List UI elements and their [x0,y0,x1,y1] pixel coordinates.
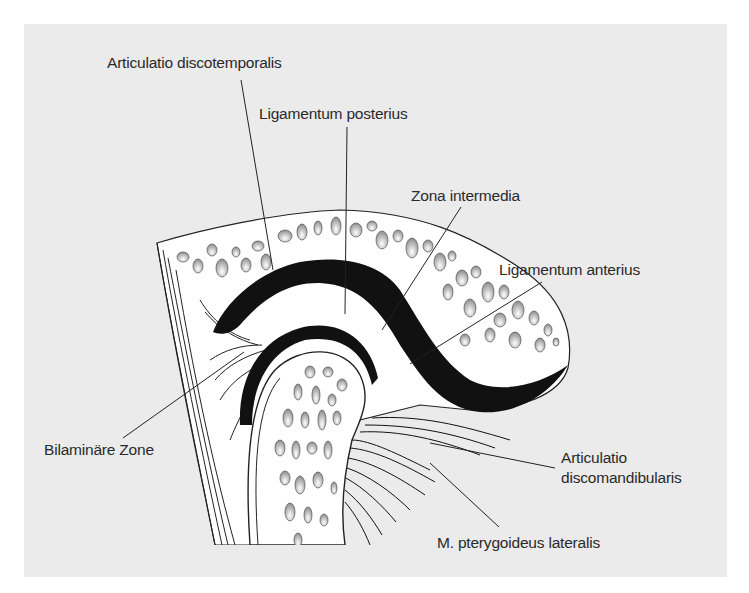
label-articulatio-discomandibularis-line2: discomandibularis [561,469,682,487]
tmj-illustration [0,0,749,593]
label-bilaminaere-zone: Bilaminäre Zone [44,441,154,459]
label-articulatio-discomandibularis-line1: Articulatio [561,449,627,467]
leader-m-pterygoideus-lateralis [430,463,499,527]
label-articulatio-discotemporalis: Articulatio discotemporalis [107,54,282,72]
label-m-pterygoideus-lateralis: M. pterygoideus lateralis [437,534,600,552]
label-zona-intermedia: Zona intermedia [411,187,520,205]
label-ligamentum-posterius: Ligamentum posterius [259,105,408,123]
label-ligamentum-anterius: Ligamentum anterius [499,261,640,279]
muscle-fibers [345,417,510,545]
